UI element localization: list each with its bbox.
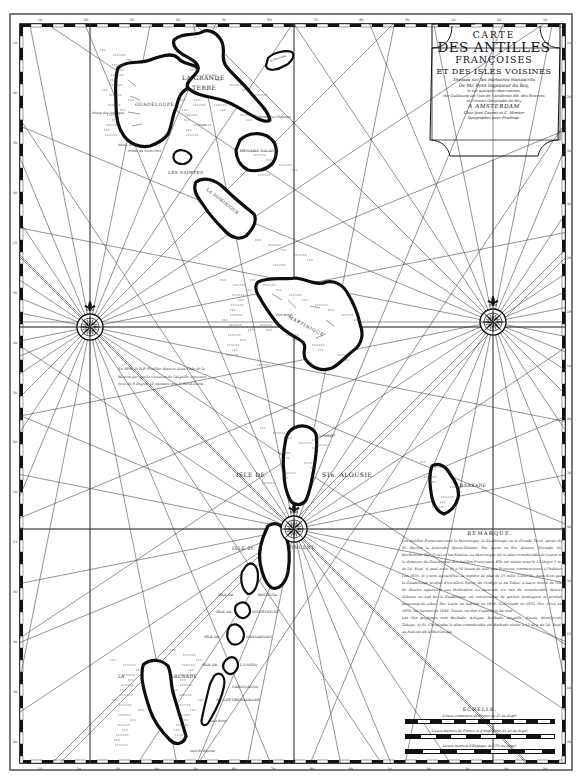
rhumb-line (493, 322, 565, 394)
label-bequia-2: BECOUYA (258, 593, 277, 597)
label-moustiques-1: ISLE DE (216, 610, 232, 614)
rhumb-line (20, 327, 90, 397)
label-carenage: Carenage (318, 434, 334, 438)
bottom-tick-label: 40 (504, 767, 508, 771)
label-grenade-1: LA (118, 674, 125, 679)
label-islet-bayona: Islet de Bayona (189, 749, 215, 753)
left-tick-label: 10 (13, 490, 17, 494)
bottom-tick-label: 30 (465, 767, 469, 771)
label-islet-ronde: Islet Rond (209, 719, 227, 723)
label-les-saintes: LES SAINTES (168, 170, 203, 175)
bottom-tick-label: 20 (426, 767, 430, 771)
right-tick-label: 15 (567, 632, 571, 636)
bottom-tick-label: 70 (271, 767, 275, 771)
coastal-place-names (100, 50, 463, 745)
remarque-title: REMARQUE. (418, 530, 562, 536)
island-moustiques (235, 602, 250, 618)
title-line-antilles: DES ANTILLES (430, 40, 558, 54)
right-tick-label: 40 (567, 202, 571, 206)
right-tick-label: 50 (567, 256, 571, 260)
top-tick-label: 80 (359, 18, 363, 22)
bottom-tick-label: 10 (38, 767, 42, 771)
right-tick-label: 40 (567, 525, 571, 529)
top-tick-label: 70 (313, 18, 317, 22)
island-dominique (195, 179, 256, 238)
island-guadeloupe (116, 55, 202, 147)
right-tick-label: 10 (567, 686, 571, 690)
compass-variation-note: En 1698. le R.P. Feuillée observa dans l… (118, 366, 213, 389)
right-tick-label: 30 (567, 471, 571, 475)
top-tick-label: 90 (405, 18, 409, 22)
left-tick-label: 14 (13, 540, 18, 544)
left-tick-label: 20 (13, 91, 17, 95)
bottom-tick-label: 90 (349, 767, 353, 771)
label-grenade-2: GRENADE (170, 674, 197, 679)
rhumb-line (20, 255, 294, 529)
left-tick-label: 20 (13, 740, 17, 744)
label-grande-terre-2: TERRE (192, 84, 216, 91)
bottom-tick-label: 80 (310, 767, 314, 771)
label-pointe-chateaux: Pointe des Chateaux (257, 115, 291, 119)
left-tick-label: 40 (13, 191, 17, 195)
right-tick-label: 10 (567, 41, 571, 45)
label-sainte-alousie-2: STe. ALOUSIE (322, 471, 372, 478)
scale-caption-3: Lieues marines d'Espagne de 17½ au degré… (405, 744, 555, 748)
rhumb-line (493, 148, 565, 322)
label-union-2: L'UNION (240, 663, 257, 667)
scale-bar-3 (405, 749, 555, 754)
label-union-1: ISLE DE (202, 663, 218, 667)
left-tick-label: 30 (13, 141, 17, 145)
right-tick-label: 50 (567, 579, 571, 583)
rhumb-line (20, 119, 294, 529)
left-tick-label: 40 (13, 341, 17, 345)
island-cannaouan (227, 624, 244, 644)
scale-caption-2: Lieues marines de France et d'Angleterre… (405, 729, 555, 733)
title-line-privilege: Geographes avec Privilege. (430, 115, 558, 120)
right-tick-label: 30 (567, 149, 571, 153)
label-pointe-vieux-fort: Pointe du Vieux Fort (127, 149, 162, 153)
right-tick-label: 10 (567, 364, 571, 368)
island-les-saintes (173, 150, 191, 164)
title-cartouche: CARTE DES ANTILLES FRANÇOISES ET DES ISL… (430, 22, 558, 157)
bottom-tick-label: 40 (154, 767, 158, 771)
title-line-francoises: FRANÇOISES (430, 54, 558, 66)
label-barbade: BARBADE (460, 483, 486, 488)
bottom-tick-label: 50 (543, 767, 547, 771)
island-bequia (241, 564, 258, 594)
right-tick-label: 20 (567, 417, 571, 421)
bottom-tick-label: 20 (77, 767, 81, 771)
compass-rose (480, 296, 506, 335)
label-cariouacou-2: OU LES GRENADILLES (216, 698, 260, 702)
scale-caption-1: Lieues communes de France de 25 au degré… (405, 714, 555, 718)
label-cannaouan-2: CANNAOUAN (246, 635, 272, 639)
scale-title: ECHELLE. (405, 707, 555, 712)
scale-bar-2 (405, 734, 555, 739)
top-tick-label: 30 (130, 18, 134, 22)
right-tick-label: 20 (567, 95, 571, 99)
label-bourg: Bourg des Habitans (91, 111, 124, 115)
label-sainte-alousie-1: ISLE DE (236, 471, 265, 478)
island-grenade (142, 660, 186, 743)
left-tick-label: 30 (13, 391, 17, 395)
left-tick-label: 20 (13, 440, 17, 444)
title-line-author: Par Guillaume De l'Isle de l'Academie Rl… (430, 94, 558, 99)
label-fort-royal: Fort Royal (275, 313, 293, 317)
label-cannaouan-1: ISLE DE (204, 635, 220, 639)
compass-rose (281, 503, 307, 542)
label-grande-terre-1: LA GRANDE (182, 74, 225, 81)
title-line-amsterdam: A AMSTERDAM (430, 103, 558, 110)
top-tick-label: 50 (221, 18, 225, 22)
label-saint-vincent-2: VINCENT (287, 545, 315, 550)
right-tick-label: 20 (567, 740, 571, 744)
top-tick-label: 10 (38, 18, 42, 22)
left-tick-label: 50 (13, 291, 17, 295)
rhumb-line (20, 257, 90, 327)
scale-legend: ECHELLE. Lieues communes de France de 25… (405, 707, 555, 759)
label-basse-terre: Basse Terre (117, 143, 137, 147)
top-tick-label: 20 (84, 18, 88, 22)
remarque-panel: REMARQUE. Les Antilles Françoises sont l… (402, 530, 562, 636)
rhumb-line (493, 322, 565, 496)
title-line-isles-voisines: ET DES ISLES VOISINES (430, 66, 558, 77)
bottom-tick-label: 50 (193, 767, 197, 771)
bottom-tick-label: 30 (115, 767, 119, 771)
